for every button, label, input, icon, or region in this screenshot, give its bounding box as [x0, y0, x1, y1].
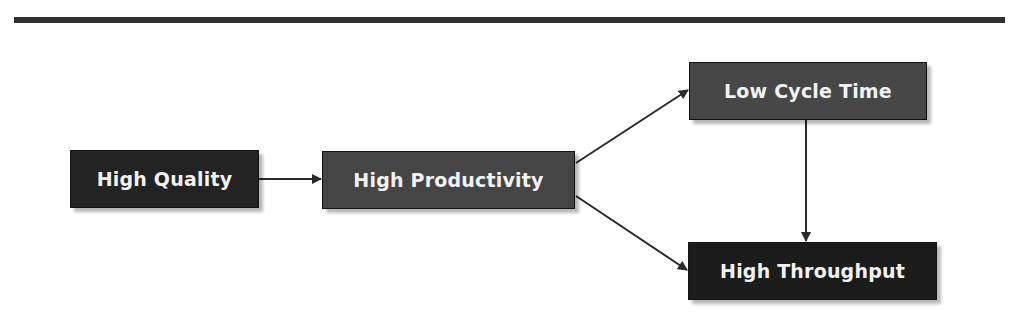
node-high-throughput: High Throughput	[688, 242, 937, 300]
node-label: High Throughput	[720, 260, 905, 282]
node-label: Low Cycle Time	[724, 80, 892, 102]
arrow-productivity-to-cycle-time	[576, 90, 688, 163]
node-label: High Quality	[97, 168, 233, 190]
node-label: High Productivity	[353, 169, 543, 191]
node-high-productivity: High Productivity	[322, 151, 575, 209]
node-low-cycle-time: Low Cycle Time	[689, 62, 927, 120]
arrow-productivity-to-throughput	[576, 196, 687, 270]
node-high-quality: High Quality	[70, 150, 259, 208]
